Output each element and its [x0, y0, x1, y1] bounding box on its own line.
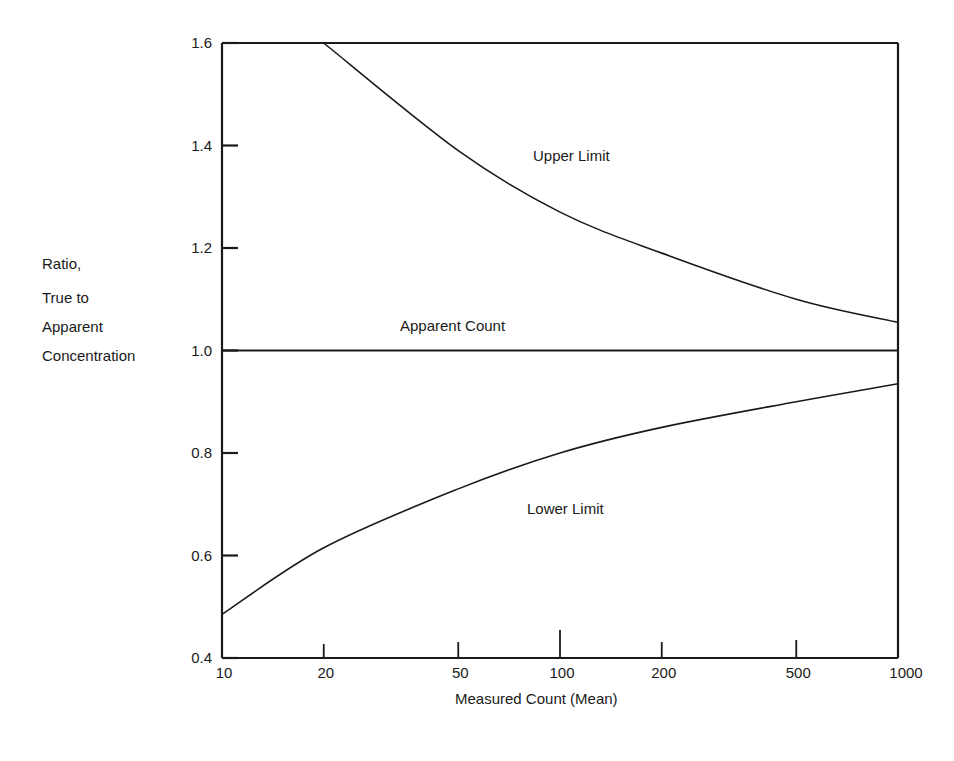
y-tick-label: 0.8: [172, 444, 212, 461]
y-tick-label: 1.4: [172, 137, 212, 154]
y-axis-label-line: Ratio,: [42, 255, 81, 272]
y-tick-label: 1.2: [172, 239, 212, 256]
x-axis-label: Measured Count (Mean): [455, 690, 618, 707]
x-tick-label: 200: [634, 664, 694, 681]
x-tick-label: 1000: [876, 664, 936, 681]
x-tick-label: 20: [296, 664, 356, 681]
lower-limit-label: Lower Limit: [527, 500, 604, 517]
x-tick-label: 10: [194, 664, 254, 681]
chart-curves: [222, 43, 898, 614]
y-axis-label-line: Apparent: [42, 318, 103, 335]
y-tick-label: 1.6: [172, 34, 212, 51]
upper-limit-label: Upper Limit: [533, 147, 610, 164]
upper-limit-curve: [324, 43, 898, 322]
y-tick-label: 0.6: [172, 547, 212, 564]
y-axis-label-line: Concentration: [42, 347, 135, 364]
y-axis-label-line: True to: [42, 289, 89, 306]
x-tick-label: 500: [768, 664, 828, 681]
y-tick-label: 1.0: [172, 342, 212, 359]
chart-plot-area: [0, 0, 954, 761]
x-tick-label: 50: [430, 664, 490, 681]
apparent-count-label: Apparent Count: [400, 317, 505, 334]
x-tick-label: 100: [532, 664, 592, 681]
